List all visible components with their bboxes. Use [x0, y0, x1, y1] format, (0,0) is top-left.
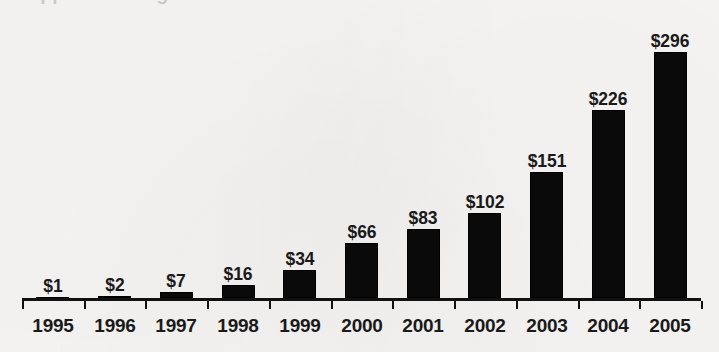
bar-value-label: $226 — [568, 89, 648, 110]
bar — [283, 270, 316, 298]
x-axis-tick — [145, 301, 147, 309]
bar — [530, 172, 563, 298]
x-axis-tick — [701, 301, 703, 309]
bar-value-label: $102 — [445, 192, 525, 213]
x-axis-tick — [578, 301, 580, 309]
x-axis-tick — [22, 301, 24, 309]
bar — [407, 229, 440, 298]
x-axis-tick — [331, 301, 333, 309]
bar — [345, 243, 378, 298]
bar — [222, 285, 255, 298]
x-axis-tick — [454, 301, 456, 309]
bar-value-label: $151 — [507, 151, 587, 172]
bar-value-label: $296 — [630, 31, 710, 52]
bar — [160, 292, 193, 298]
x-axis-tick — [516, 301, 518, 309]
x-axis-tick — [84, 301, 86, 309]
bar — [468, 213, 501, 298]
bar — [592, 110, 625, 298]
x-axis-tick — [269, 301, 271, 309]
bar — [98, 296, 131, 298]
x-axis-line — [22, 298, 701, 301]
x-axis-year-label: 2005 — [630, 315, 710, 337]
bar — [36, 297, 69, 298]
x-axis-tick — [392, 301, 394, 309]
plot-area: $11995$21996$71997$161998$341999$662000$… — [0, 0, 719, 352]
bar — [654, 52, 687, 298]
bar-value-label: $34 — [260, 249, 340, 270]
x-axis-tick — [207, 301, 209, 309]
x-axis-tick — [639, 301, 641, 309]
bar-chart-figure: clipped heading above chart area $11995$… — [0, 0, 719, 352]
